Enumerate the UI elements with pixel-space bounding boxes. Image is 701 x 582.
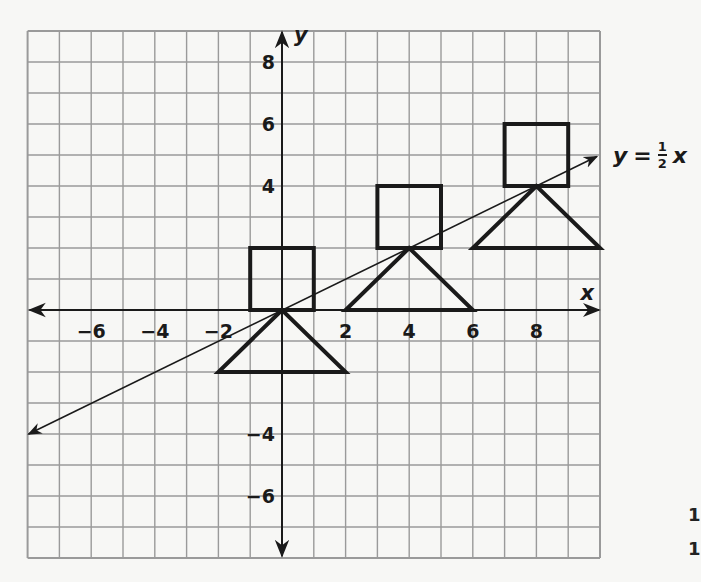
y-tick-label: 8 xyxy=(262,51,275,73)
y-tick-label: 4 xyxy=(262,175,275,197)
x-tick-label: 6 xyxy=(466,320,479,342)
x-tick-label: −2 xyxy=(204,320,233,342)
x-axis-label: x xyxy=(580,281,596,305)
x-tick-label: −6 xyxy=(77,320,106,342)
y-axis-label: y xyxy=(294,23,309,47)
equation-lhs: y xyxy=(613,143,627,168)
x-tick-label: 4 xyxy=(403,320,416,342)
equation-equals: = xyxy=(633,143,651,168)
y-tick-label: 6 xyxy=(262,113,275,135)
x-tick-label: 8 xyxy=(530,320,543,342)
fraction-numerator: 1 xyxy=(658,140,667,153)
x-tick-label: −4 xyxy=(140,320,169,342)
fraction-denominator: 2 xyxy=(658,157,667,170)
equation-fraction: 1 2 xyxy=(658,140,667,170)
y-tick-label: −6 xyxy=(246,485,275,507)
cropped-edge-glyph: 1 xyxy=(688,538,701,559)
equation-variable: x xyxy=(673,143,687,168)
y-tick-label: −4 xyxy=(246,423,275,445)
line-y-equals-half-x xyxy=(29,157,597,434)
line-equation-label: y = 1 2 x xyxy=(613,140,687,170)
cropped-edge-glyph: 1 xyxy=(688,504,701,525)
x-tick-label: 2 xyxy=(339,320,352,342)
